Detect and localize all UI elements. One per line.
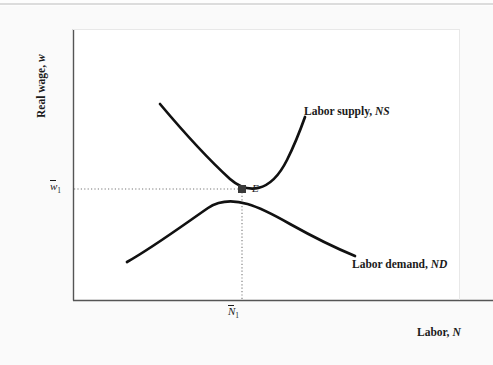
y-tick-symbol: w: [50, 180, 57, 192]
labor-supply-label-text: Labor supply,: [304, 105, 375, 117]
labor-supply-label-symbol: NS: [375, 105, 390, 117]
x-axis-title-text: Labor,: [417, 326, 452, 338]
y-axis-title-text: Real wage,: [35, 62, 47, 118]
figure-canvas: Labor supply, NS Labor demand, ND Real w…: [0, 0, 493, 365]
equilibrium-point-label: E: [252, 183, 259, 194]
x-tick-symbol: N: [228, 305, 235, 317]
overbar-n: [228, 305, 234, 306]
y-tick-subscript: 1: [57, 186, 61, 195]
labor-supply-label: Labor supply, NS: [304, 106, 390, 118]
labor-demand-label-text: Labor demand,: [352, 258, 431, 270]
labor-market-chart: [0, 0, 493, 365]
equilibrium-point-marker: [238, 185, 246, 193]
x-axis-title-symbol: N: [452, 326, 460, 338]
y-axis-title: Real wage, w: [36, 54, 48, 118]
y-axis-title-symbol: w: [35, 54, 47, 62]
x-axis-tick-label-n1: N1: [228, 306, 239, 320]
overbar-w: [50, 180, 56, 181]
labor-demand-label: Labor demand, ND: [352, 259, 447, 271]
x-tick-subscript: 1: [235, 311, 239, 320]
y-axis-tick-label-w1: w1: [50, 181, 61, 195]
labor-demand-label-symbol: ND: [431, 258, 448, 270]
x-axis-title: Labor, N: [417, 327, 461, 339]
